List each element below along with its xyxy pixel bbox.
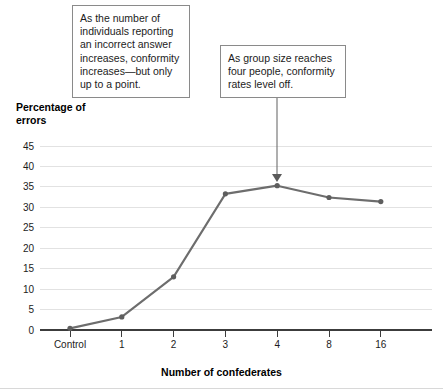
- y-tick-label: 25: [23, 222, 35, 233]
- callout-leader-line: [272, 98, 282, 182]
- y-tick-label: 20: [23, 243, 35, 254]
- gridlines: [40, 146, 432, 310]
- data-point: [67, 326, 72, 331]
- data-point: [223, 191, 228, 196]
- data-point: [275, 183, 280, 188]
- y-tick-label: 5: [28, 304, 34, 315]
- x-axis-title: Number of confederates: [0, 366, 443, 379]
- y-tick-label: 35: [23, 181, 35, 192]
- x-tick-label: 1: [119, 339, 125, 350]
- y-tick-label: 45: [23, 141, 35, 152]
- x-tick-label: 16: [375, 339, 387, 350]
- x-tick-labels: Control1234816: [54, 339, 387, 350]
- x-tick-label: 3: [223, 339, 229, 350]
- x-tick-label: 8: [326, 339, 332, 350]
- data-point: [326, 195, 331, 200]
- y-tick-label: 30: [23, 202, 35, 213]
- y-tick-label: 15: [23, 263, 35, 274]
- plot-area: 051015202530354045 Control1234816: [0, 0, 443, 392]
- y-tick-label: 10: [23, 284, 35, 295]
- x-tick-marks: [70, 331, 381, 337]
- x-tick-label: 2: [171, 339, 177, 350]
- series-points: [67, 183, 383, 331]
- data-point: [119, 314, 124, 319]
- x-tick-label: 4: [274, 339, 280, 350]
- bottom-divider: [0, 388, 443, 389]
- data-point: [378, 199, 383, 204]
- data-point: [171, 274, 176, 279]
- x-tick-label: Control: [54, 339, 86, 350]
- chart-figure: As the number of individuals reporting a…: [0, 0, 443, 392]
- data-series-percentage-of-errors: [67, 183, 383, 331]
- y-tick-label: 0: [28, 325, 34, 336]
- y-tick-labels: 051015202530354045: [23, 141, 35, 336]
- y-tick-label: 40: [23, 161, 35, 172]
